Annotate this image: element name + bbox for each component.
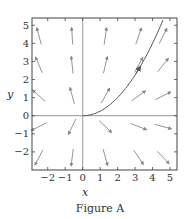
y-tick-label: 0 <box>23 110 29 121</box>
x-tick-label: −2 <box>40 172 55 183</box>
field-arrow <box>158 58 169 71</box>
field-arrow <box>159 29 167 44</box>
y-tick-label: −2 <box>14 146 29 157</box>
x-axis-label: x <box>82 186 89 199</box>
x-tick-label: 5 <box>167 172 173 183</box>
solution-curve <box>83 20 163 116</box>
y-tick-label: −1 <box>14 128 29 139</box>
field-arrow <box>136 28 142 44</box>
x-tick-label: 1 <box>97 172 103 183</box>
field-arrow <box>71 149 73 166</box>
field-arrow <box>131 123 147 129</box>
field-arrow <box>155 124 171 128</box>
x-tick-label: 4 <box>149 172 155 183</box>
x-tick-label: 3 <box>132 172 138 183</box>
y-axis-label: y <box>6 88 14 101</box>
y-tick-label: 3 <box>23 56 29 67</box>
field-arrow <box>103 149 107 165</box>
field-arrow <box>104 57 108 74</box>
x-tick-label: −1 <box>58 172 73 183</box>
y-tick-label: 4 <box>23 38 29 49</box>
field-arrow <box>31 123 46 131</box>
y-tick-label: 5 <box>23 20 29 31</box>
y-tick-label: 2 <box>23 74 29 85</box>
x-tick-label: 2 <box>114 172 120 183</box>
figure-a: −2−1012345−2−1012345 x y Figure A <box>0 0 189 219</box>
field-arrow <box>33 90 46 101</box>
field-arrow <box>134 150 143 164</box>
field-arrow <box>99 121 111 133</box>
field-arrow <box>132 91 146 101</box>
figure-caption: Figure A <box>76 202 126 215</box>
field-arrow <box>101 88 109 103</box>
field-arrow <box>157 151 169 163</box>
field-arrow <box>155 92 170 100</box>
field-arrow <box>36 57 43 73</box>
field-arrow <box>72 28 73 45</box>
y-tick-label: 1 <box>23 92 29 103</box>
field-arrow <box>37 28 41 44</box>
field-arrow <box>104 28 106 45</box>
field-arrow <box>70 88 74 104</box>
field-arrow <box>71 57 73 74</box>
field-arrow <box>68 119 75 134</box>
x-tick-label: 0 <box>79 172 85 183</box>
curve-path <box>83 20 163 116</box>
field-arrow <box>35 150 43 165</box>
